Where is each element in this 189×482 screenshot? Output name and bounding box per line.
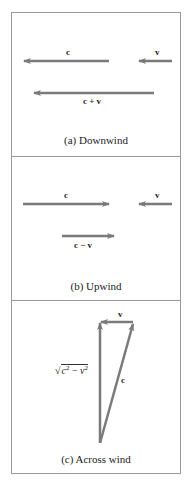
label-v-a: v xyxy=(155,47,160,57)
caption-across-wind: (c) Across wind xyxy=(11,453,181,465)
label-v-c: v xyxy=(118,309,123,319)
vector-diagram xyxy=(0,0,189,482)
caption-upwind: (b) Upwind xyxy=(11,280,181,292)
label-c-c: c xyxy=(121,375,125,385)
label-sqrt-c2-minus-v2: √c2 − v2 xyxy=(55,364,88,376)
label-v-b: v xyxy=(155,190,160,200)
label-c-b: c xyxy=(64,190,68,200)
label-c-plus-v: c + v xyxy=(83,96,101,106)
label-c-minus-v: c − v xyxy=(74,240,92,250)
label-c-a: c xyxy=(66,47,70,57)
caption-downwind: (a) Downwind xyxy=(11,134,181,146)
vector-c-across xyxy=(100,324,133,443)
